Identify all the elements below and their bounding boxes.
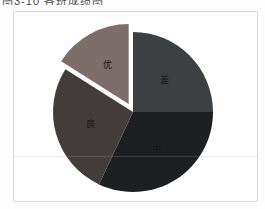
figure-caption-text: 图3-10 各班成绩图 (2, 0, 182, 5)
figure-caption: 图3-10 各班成绩图 (2, 0, 182, 5)
pie-slice-0 (133, 32, 213, 112)
pie-slice-label-1: 中 (152, 143, 161, 154)
pie-slice-label-3: 优 (103, 59, 112, 70)
pie-chart: 差中良优 (14, 12, 257, 201)
chart-panel: 差中良优 (13, 11, 258, 202)
pie-slice-label-0: 差 (160, 74, 169, 85)
pie-slice-label-2: 良 (86, 118, 95, 129)
